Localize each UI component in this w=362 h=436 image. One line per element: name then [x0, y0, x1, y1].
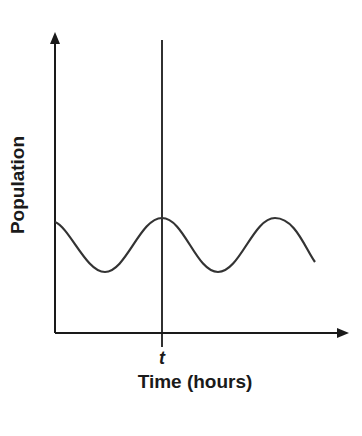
x-axis-arrow-icon — [337, 328, 349, 338]
y-axis-label: Population — [7, 136, 29, 234]
y-axis-arrow-icon — [50, 32, 60, 44]
x-axis-label: Time (hours) — [138, 371, 253, 393]
time-t-label: t — [159, 348, 165, 369]
population-curve — [55, 218, 315, 272]
